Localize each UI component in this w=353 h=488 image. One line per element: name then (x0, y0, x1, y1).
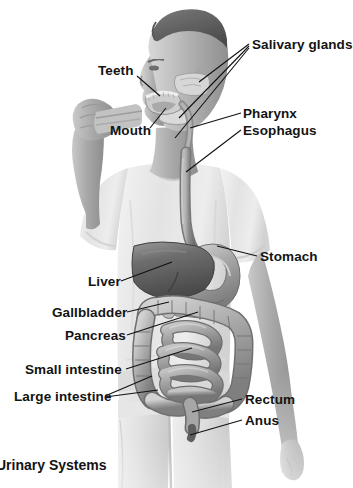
label-pancreas: Pancreas (65, 329, 126, 343)
figure-caption: Urinary Systems (0, 457, 107, 473)
label-esophagus: Esophagus (243, 124, 317, 138)
label-liver: Liver (88, 275, 121, 289)
label-teeth: Teeth (98, 64, 134, 78)
label-anus: Anus (245, 414, 279, 428)
label-salivary-glands: Salivary glands (252, 38, 353, 52)
label-rectum: Rectum (245, 393, 295, 407)
liver-organ (132, 242, 214, 298)
label-small-intestine: Small intestine (25, 363, 122, 377)
label-gallbladder: Gallbladder (52, 306, 127, 320)
label-mouth: Mouth (110, 124, 151, 138)
label-pharynx: Pharynx (243, 107, 297, 121)
label-stomach: Stomach (260, 250, 318, 264)
label-large-intestine: Large intestine (14, 390, 112, 404)
anus-organ (191, 428, 192, 438)
